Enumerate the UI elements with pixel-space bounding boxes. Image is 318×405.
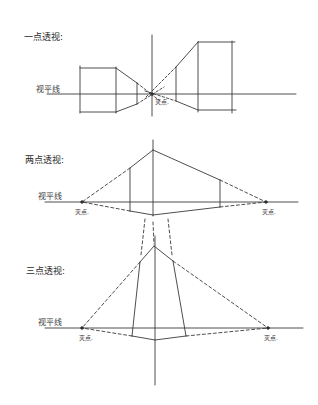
- vanishing-point-marker: [81, 327, 84, 330]
- bottom-edge-right: [155, 336, 186, 340]
- left-taper-top: [116, 68, 137, 83]
- vp-ray: [82, 202, 130, 211]
- left-face-top: [130, 150, 153, 168]
- bottom-edge-left: [132, 336, 155, 340]
- right-taper-top: [176, 42, 198, 67]
- section-title-one-point: 一点透视:: [24, 30, 63, 43]
- vanishing-point-marker: [267, 327, 270, 330]
- vanishing-point-label: 灭点.: [155, 97, 169, 106]
- two-point-diagram: [45, 140, 298, 216]
- vanishing-point-marker: [265, 201, 268, 204]
- vp-ray: [141, 219, 145, 255]
- top-edge-right: [154, 246, 173, 261]
- vp-ray: [82, 168, 130, 202]
- vanishing-point-label: 灭点.: [75, 207, 89, 216]
- left-taper-bottom: [116, 104, 137, 112]
- vanishing-point-label: 灭点.: [264, 333, 278, 342]
- vp-ray: [220, 202, 266, 207]
- right-face-bottom: [153, 207, 220, 215]
- vp-ray: [220, 180, 266, 202]
- vp-ray: [168, 219, 172, 255]
- right-taper-bottom: [176, 101, 198, 110]
- horizon-label: 视平线: [38, 316, 62, 327]
- left-edge: [132, 262, 140, 336]
- vanishing-point-label: 灭点.: [262, 207, 276, 216]
- horizon-label: 视平线: [38, 190, 62, 201]
- vanishing-point-marker: [81, 201, 84, 204]
- one-point-diagram: [47, 35, 296, 116]
- vanishing-point-label: 灭点.: [79, 333, 93, 342]
- section-title-three-point: 三点透视:: [26, 264, 65, 277]
- vp-ray: [82, 262, 140, 328]
- right-edge: [173, 261, 186, 336]
- vp-ray: [173, 261, 268, 328]
- horizon-label: 视平线: [36, 83, 60, 94]
- three-point-diagram: [45, 219, 303, 385]
- right-face-top: [153, 150, 220, 180]
- left-face-bottom: [130, 211, 153, 215]
- perspective-diagram: [0, 0, 318, 405]
- section-title-two-point: 两点透视:: [25, 153, 64, 166]
- vp-ray: [153, 222, 154, 244]
- vanishing-point-marker: [151, 93, 154, 96]
- vp-ray: [186, 328, 268, 336]
